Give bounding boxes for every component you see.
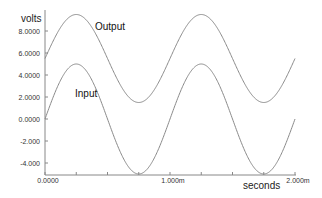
input-series-label: Input — [75, 88, 97, 99]
y-tick-label: 0.0000 — [19, 116, 41, 123]
y-axis-title: volts — [21, 13, 42, 24]
x-tick-label: 1.000m — [161, 177, 185, 184]
y-tick-label: 2.0000 — [19, 94, 41, 101]
line-chart: 8.00006.00004.00002.00000.0000-2.000-4.0… — [0, 0, 322, 198]
y-tick-label: -2.000 — [20, 138, 40, 145]
y-tick-label: 6.0000 — [19, 50, 41, 57]
y-tick-label: 4.0000 — [19, 72, 41, 79]
y-tick-label: 8.0000 — [19, 28, 41, 35]
x-axis-title: seconds — [243, 180, 280, 191]
y-tick-label: -4.000 — [20, 160, 40, 167]
y-axis-ticks: 8.00006.00004.00002.00000.0000-2.000-4.0… — [19, 28, 48, 167]
input-curve — [45, 64, 295, 174]
x-tick-label: 0.0000 — [37, 177, 59, 184]
x-tick-label: 2.000m — [286, 177, 310, 184]
output-series-label: Output — [95, 21, 125, 32]
